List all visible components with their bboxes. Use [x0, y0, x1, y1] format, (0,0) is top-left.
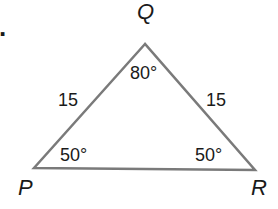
side-length-pq: 15 — [58, 91, 78, 109]
vertex-label-q: Q — [137, 1, 154, 23]
angle-label-q: 80° — [130, 64, 157, 82]
angle-label-p: 50° — [60, 146, 87, 164]
angle-label-r: 50° — [195, 146, 222, 164]
vertex-label-r: R — [251, 177, 267, 199]
bullet-marker: . — [0, 14, 6, 40]
vertex-label-p: P — [18, 177, 33, 199]
side-length-qr: 15 — [206, 91, 226, 109]
triangle-pqr — [0, 0, 278, 209]
